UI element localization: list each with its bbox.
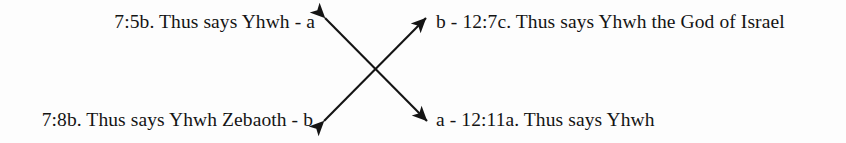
label-bottom-left: 7:8b. Thus says Yhwh Zebaoth - b [42,110,313,130]
chiasm-figure: 7:5b. Thus says Yhwh - a b - 12:7c. Thus… [0,0,846,143]
label-top-left: 7:5b. Thus says Yhwh - a [114,12,315,32]
label-top-right: b - 12:7c. Thus says Yhwh the God of Isr… [436,12,785,32]
label-bottom-right: a - 12:11a. Thus says Yhwh [436,110,655,130]
